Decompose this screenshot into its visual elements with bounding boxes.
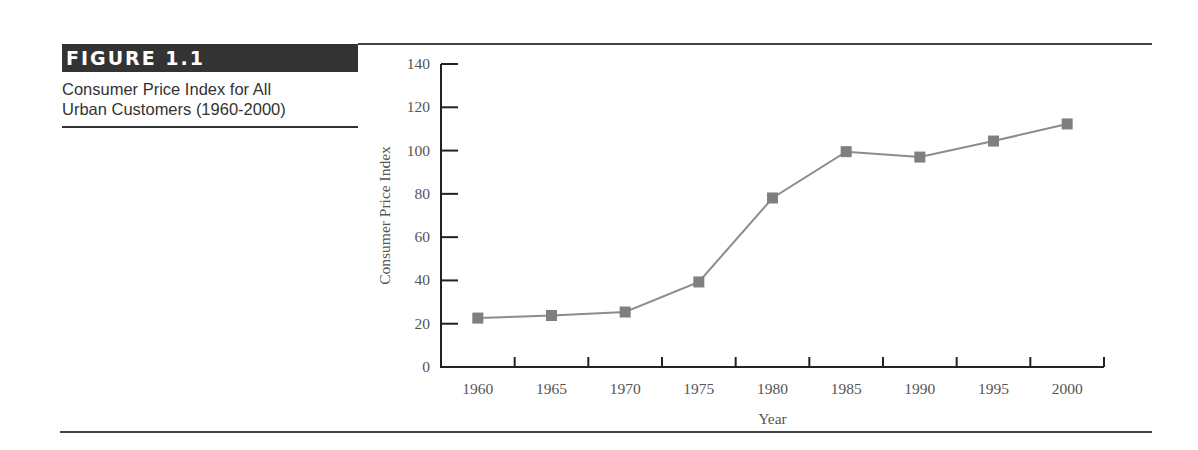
x-tick-label: 1960 xyxy=(462,380,493,397)
y-tick-label: 140 xyxy=(407,55,431,72)
x-tick-label: 1970 xyxy=(610,380,641,397)
x-tick-label: 2000 xyxy=(1052,380,1083,397)
data-point-marker xyxy=(620,307,631,318)
line-chart: 0204060801001201401960196519701975198019… xyxy=(0,0,1198,450)
x-tick-label: 1995 xyxy=(978,380,1009,397)
data-point-marker xyxy=(914,152,925,163)
x-tick-label: 1965 xyxy=(536,380,567,397)
data-point-marker xyxy=(841,146,852,157)
y-tick-label: 40 xyxy=(415,271,431,288)
data-point-marker xyxy=(1062,118,1073,129)
x-tick-label: 1980 xyxy=(757,380,788,397)
x-tick-label: 1975 xyxy=(683,380,714,397)
data-point-marker xyxy=(693,276,704,287)
y-tick-label: 120 xyxy=(407,98,431,115)
y-tick-label: 80 xyxy=(415,185,431,202)
series-line xyxy=(478,124,1067,318)
x-tick-label: 1990 xyxy=(904,380,935,397)
x-tick-label: 1985 xyxy=(831,380,862,397)
y-tick-label: 0 xyxy=(422,358,430,375)
data-point-marker xyxy=(546,310,557,321)
y-tick-label: 20 xyxy=(415,315,431,332)
y-tick-label: 60 xyxy=(415,228,431,245)
data-point-marker xyxy=(767,192,778,203)
y-tick-label: 100 xyxy=(407,142,431,159)
y-axis-title: Consumer Price Index xyxy=(376,146,393,285)
x-axis-title: Year xyxy=(758,410,787,427)
data-point-marker xyxy=(988,136,999,147)
data-point-marker xyxy=(472,313,483,324)
